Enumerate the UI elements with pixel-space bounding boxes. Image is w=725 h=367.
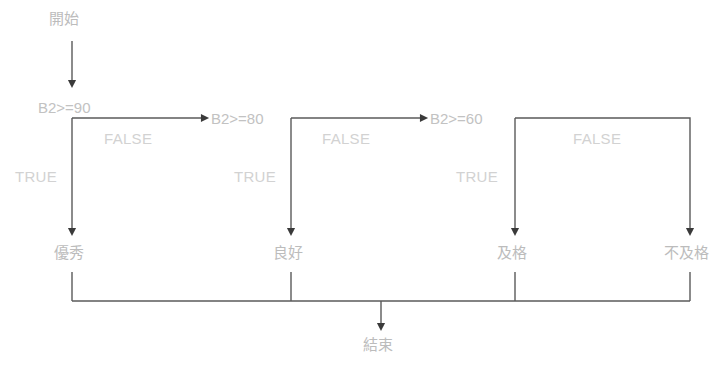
start-node-label: 開始 xyxy=(49,10,79,28)
branch-label-d3-false: FALSE xyxy=(573,130,621,148)
decision-d1-label: B2>=90 xyxy=(38,99,91,117)
outcome-node-excellent: 優秀 xyxy=(54,244,84,262)
flowchart-connectors xyxy=(0,0,725,367)
outcome-node-fail: 不及格 xyxy=(664,244,709,262)
branch-label-d2-false: FALSE xyxy=(322,130,370,148)
decision-d3-label: B2>=60 xyxy=(430,110,483,128)
branch-label-d1-true: TRUE xyxy=(15,168,57,186)
outcome-node-pass: 及格 xyxy=(497,244,527,262)
branch-label-d3-true: TRUE xyxy=(456,168,498,186)
flowchart-canvas: 開始 B2>=90 B2>=80 B2>=60 FALSE FALSE FALS… xyxy=(0,0,725,367)
decision-d2-label: B2>=80 xyxy=(211,110,264,128)
branch-label-d1-false: FALSE xyxy=(104,130,152,148)
outcome-node-good: 良好 xyxy=(273,244,303,262)
end-node-label: 結束 xyxy=(363,336,393,354)
branch-label-d2-true: TRUE xyxy=(234,168,276,186)
